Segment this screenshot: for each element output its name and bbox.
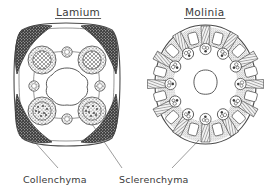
lamium-cross-section [14,23,120,146]
panel-title-molinia-group: Molinia [184,6,225,19]
label-sclerenchyma: Sclerenchyma [119,174,189,185]
lamium-vascular-bundle-bottom-right [78,97,106,125]
panel-title-lamium-group: Lamium [55,6,101,19]
molinia-central-cavity [194,70,217,94]
botanical-diagram-canvas: Lamium Molinia [0,0,272,195]
lamium-vascular-bundle-top-left [28,46,56,74]
label-collenchyma: Collenchyma [23,174,87,185]
lamium-interfascicular-bundle-top [62,47,72,57]
panel-title-lamium: Lamium [56,6,100,18]
figure-root: Lamium Molinia [0,0,272,195]
panel-title-molinia: Molinia [185,6,224,18]
lamium-vascular-bundle-bottom-left [28,97,56,125]
leader-sclerenchyma-molinia [172,140,199,168]
lamium-interfascicular-bundle-left [29,81,39,91]
lamium-interfascicular-bundle-right [95,81,105,91]
molinia-cross-section [148,20,264,150]
lamium-interfascicular-bundle-bottom [62,114,72,124]
lamium-vascular-bundle-top-right [78,46,106,74]
